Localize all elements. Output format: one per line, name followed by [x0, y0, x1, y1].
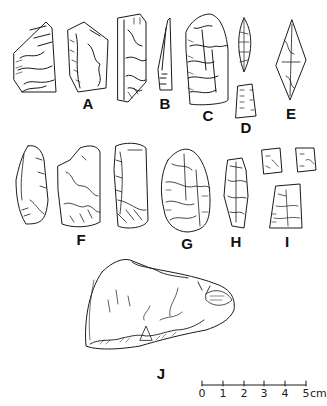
- artifact-illustration-plate: A B C D E F G H I J 0 1 2 3 4 5 cm: [0, 0, 327, 406]
- label-h: H: [231, 234, 242, 249]
- artifact-drawings: [0, 0, 327, 406]
- artifact-i-piece-1: [262, 148, 282, 174]
- artifact-d-fragment: [236, 84, 256, 118]
- artifact-a-view-1: [14, 22, 56, 92]
- artifact-f-view-1: [16, 146, 48, 224]
- label-j: J: [157, 366, 165, 381]
- artifact-i-piece-2: [296, 148, 316, 172]
- label-g: G: [181, 236, 193, 251]
- artifact-a-view-3: [118, 14, 146, 102]
- artifact-g: [161, 149, 210, 232]
- artifact-i-piece-3: [270, 184, 302, 228]
- label-a: A: [83, 96, 94, 111]
- label-e: E: [286, 106, 296, 121]
- artifact-h: [224, 158, 248, 228]
- label-c: C: [203, 108, 214, 123]
- artifact-f-view-3: [114, 143, 148, 228]
- scale-tick-1: 1: [220, 388, 227, 399]
- label-i: I: [285, 234, 289, 249]
- artifact-c: [186, 14, 228, 105]
- scale-tick-3: 3: [261, 388, 268, 399]
- scale-bar: [202, 381, 306, 386]
- artifact-b: [158, 18, 172, 90]
- artifact-f-view-2: [58, 146, 100, 227]
- label-d: D: [241, 120, 252, 135]
- label-f: F: [76, 232, 85, 247]
- scale-tick-4: 4: [282, 388, 289, 399]
- artifact-a-view-2: [68, 22, 108, 92]
- scale-unit: cm: [310, 388, 327, 399]
- artifact-j: [86, 260, 235, 350]
- scale-tick-5: 5: [303, 388, 310, 399]
- scale-tick-2: 2: [241, 388, 248, 399]
- artifact-e: [276, 20, 306, 100]
- artifact-d-point: [239, 18, 251, 72]
- scale-tick-0: 0: [199, 388, 206, 399]
- label-b: B: [160, 96, 171, 111]
